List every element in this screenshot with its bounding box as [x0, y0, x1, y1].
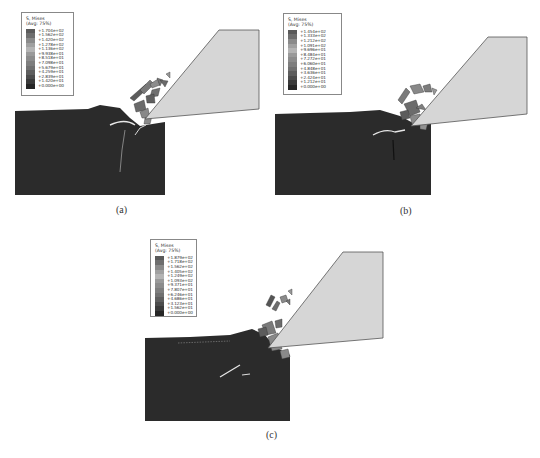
stress-legend-a: S, Mises (Avg: 75%) +1.704e+02+1.562e+02…	[21, 12, 74, 96]
legend-color-swatch	[288, 85, 297, 90]
workpiece	[275, 110, 431, 195]
legend-rows: +1.704e+02+1.562e+02+1.420e+02+1.278e+02…	[26, 29, 70, 89]
legend-row: +0.000e+00	[288, 85, 338, 90]
legend-rows: +1.879e+02+1.718e+02+1.562e+02+1.405e+02…	[155, 256, 193, 316]
legend-subtitle: (Avg: 75%)	[155, 248, 193, 253]
caption-c: (c)	[266, 429, 277, 440]
legend-color-swatch	[26, 84, 35, 89]
legend-value: +0.000e+00	[38, 84, 64, 89]
stress-legend-b: S, Mises (Avg: 75%) +1.454e+02+1.333e+02…	[283, 13, 342, 95]
stress-legend-c: S, Mises (Avg: 75%) +1.879e+02+1.718e+02…	[150, 239, 197, 317]
legend-row: +0.000e+00	[26, 84, 70, 89]
legend-color-swatch	[155, 311, 164, 316]
panel-a: S, Mises (Avg: 75%) +1.704e+02+1.562e+02…	[0, 0, 270, 225]
legend-subtitle: (Avg: 75%)	[288, 22, 338, 27]
legend-value: +0.000e+00	[300, 85, 326, 90]
panel-c: S, Mises (Avg: 75%) +1.879e+02+1.718e+02…	[130, 225, 410, 458]
workpiece	[145, 329, 290, 421]
legend-rows: +1.454e+02+1.333e+02+1.212e+02+1.091e+02…	[288, 30, 338, 90]
workpiece	[15, 105, 165, 195]
caption-b: (b)	[400, 205, 412, 216]
legend-subtitle: (Avg: 75%)	[26, 21, 70, 26]
legend-row: +0.000e+00	[155, 311, 193, 316]
caption-a: (a)	[116, 204, 127, 215]
cutting-tool	[145, 30, 259, 119]
cutting-tool	[411, 37, 527, 126]
legend-value: +0.000e+00	[167, 311, 193, 316]
panel-b: S, Mises (Avg: 75%) +1.454e+02+1.333e+02…	[270, 0, 540, 225]
